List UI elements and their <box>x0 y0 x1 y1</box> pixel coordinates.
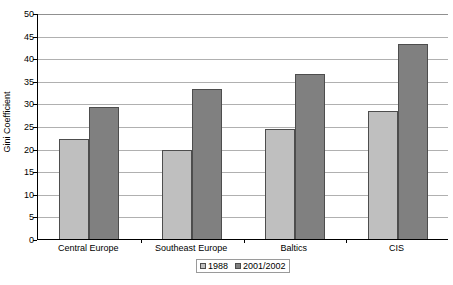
bar-chart: Gini Coefficient 05101520253035404550 Ce… <box>0 0 453 285</box>
legend-label: 1988 <box>208 262 228 271</box>
legend-swatch-icon <box>200 263 206 269</box>
bar <box>265 129 295 239</box>
bar-group <box>38 14 141 239</box>
y-axis-tick-mark <box>33 82 37 83</box>
y-axis-tick-mark <box>33 59 37 60</box>
legend-item[interactable]: 1988 <box>200 262 228 271</box>
y-axis-tick-mark <box>33 104 37 105</box>
bar <box>368 111 398 239</box>
x-axis-tick-label: Baltics <box>243 243 346 253</box>
x-axis-tick-labels: Central EuropeSoutheast EuropeBalticsCIS <box>37 243 448 257</box>
x-axis-tick-label: Central Europe <box>37 243 140 253</box>
plot-area <box>37 14 448 240</box>
y-axis-title-text: Gini Coefficient <box>2 91 12 152</box>
plot-inner <box>38 14 448 239</box>
bar <box>89 107 119 239</box>
bar-group <box>141 14 244 239</box>
legend-item[interactable]: 2001/2002 <box>235 262 286 271</box>
legend-label: 2001/2002 <box>243 262 286 271</box>
chart-legend: 19882001/2002 <box>196 259 290 273</box>
bar <box>398 44 428 239</box>
y-axis-tick-mark <box>33 150 37 151</box>
bar <box>59 139 89 239</box>
bar <box>162 150 192 239</box>
bar <box>295 74 325 239</box>
y-axis-tick-mark <box>33 127 37 128</box>
x-axis-tick-label: Southeast Europe <box>140 243 243 253</box>
y-axis-tick-mark <box>33 195 37 196</box>
y-axis-tick-mark <box>33 217 37 218</box>
y-axis-tick-mark <box>33 240 37 241</box>
bar <box>192 89 222 239</box>
legend-swatch-icon <box>235 263 241 269</box>
bar-group <box>346 14 449 239</box>
y-axis-title: Gini Coefficient <box>0 0 14 243</box>
y-axis-tick-mark <box>33 14 37 15</box>
x-axis-tick-label: CIS <box>345 243 448 253</box>
y-axis-tick-mark <box>33 172 37 173</box>
y-axis-tick-mark <box>33 37 37 38</box>
bar-group <box>244 14 347 239</box>
